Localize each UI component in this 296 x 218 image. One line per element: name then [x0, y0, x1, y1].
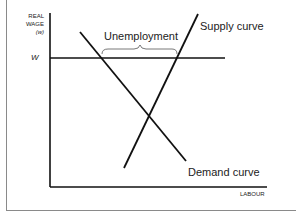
wage-level-label: W	[31, 53, 39, 62]
unemployment-brace	[102, 45, 177, 54]
x-axis-label: LABOUR	[240, 191, 265, 197]
demand-curve-label: Demand curve	[188, 166, 260, 178]
y-axis-label-line: (w)	[22, 28, 44, 36]
y-axis-label-line: REAL	[22, 12, 44, 20]
demand-curve	[80, 32, 186, 161]
y-axis-label: REAL WAGE (w)	[22, 12, 44, 36]
supply-curve-label: Supply curve	[200, 20, 264, 32]
unemployment-label: Unemployment	[104, 30, 178, 42]
y-axis-label-line: WAGE	[22, 20, 44, 28]
